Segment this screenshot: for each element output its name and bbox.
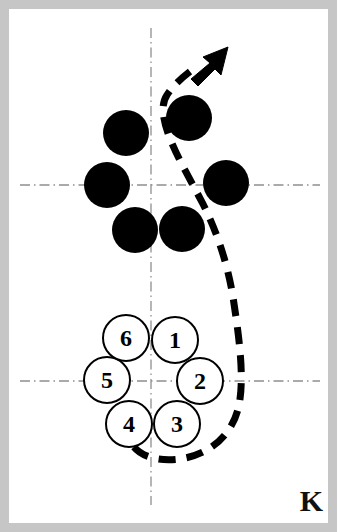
numbered-circle-5-label: 5 — [101, 367, 113, 393]
disc-upper-right — [166, 95, 212, 141]
figure-panel: 1 2 3 4 5 6 K — [0, 0, 337, 532]
numbered-circle-2-label: 2 — [194, 368, 206, 394]
trajectory-arrow-head — [191, 47, 228, 86]
figure-canvas: 1 2 3 4 5 6 — [0, 0, 337, 532]
numbered-circle-group: 1 2 3 4 5 6 — [84, 315, 223, 447]
numbered-circle-3: 3 — [154, 401, 200, 447]
numbered-circle-2: 2 — [177, 358, 223, 404]
numbered-circle-1: 1 — [152, 317, 198, 363]
numbered-circle-6-label: 6 — [120, 325, 132, 351]
numbered-circle-5: 5 — [84, 357, 130, 403]
numbered-circle-3-label: 3 — [171, 411, 183, 437]
filled-disc-group — [84, 95, 249, 253]
disc-upper-left — [103, 110, 149, 156]
disc-middle-left — [84, 162, 130, 208]
panel-label: K — [300, 486, 323, 516]
numbered-circle-1-label: 1 — [169, 327, 181, 353]
disc-lower-right — [159, 206, 205, 252]
disc-middle-right — [203, 160, 249, 206]
numbered-circle-4-label: 4 — [123, 411, 135, 437]
numbered-circle-4: 4 — [106, 401, 152, 447]
numbered-circle-6: 6 — [103, 315, 149, 361]
disc-lower-left — [112, 207, 158, 253]
